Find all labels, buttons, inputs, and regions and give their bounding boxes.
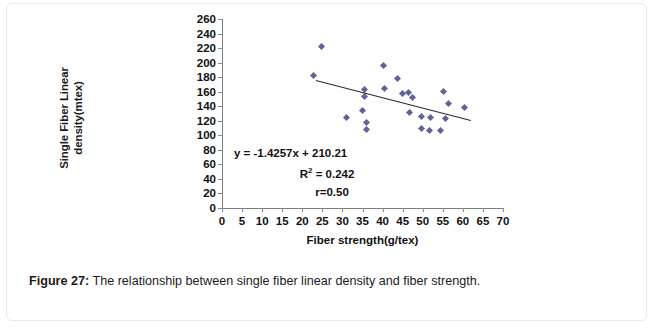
x-axis-tick [322,208,323,212]
scatter-point [442,115,449,122]
y-axis-tick-label: 240 [168,29,216,39]
y-axis-tick-label: 120 [168,116,216,126]
x-axis-tick [262,208,263,212]
figure-caption-text: The relationship between single fiber li… [89,274,480,288]
y-axis-tick-label: 40 [168,174,216,184]
y-axis-tick [218,106,222,107]
y-axis-tick-label: 60 [168,159,216,169]
y-axis-tick [218,63,222,64]
x-axis-tick [242,208,243,212]
x-axis-tick [483,208,484,212]
y-axis-tick [218,48,222,49]
figure-caption-label: Figure 27: [29,274,89,288]
y-axis-tick-label: 160 [168,87,216,97]
y-axis-tick-label: 80 [168,145,216,155]
x-axis-tick [302,208,303,212]
scatter-point [359,107,366,114]
x-axis-tick [363,208,364,212]
x-axis-tick [222,208,223,212]
figure-chart-area: Single Fiber Linear density(mtex) 020406… [0,0,653,262]
figure-caption: Figure 27: The relationship between sing… [29,272,621,291]
y-axis-tick [218,179,222,180]
chart-annotations: y = -1.4257x + 210.21 R2 = 0.242 r=0.50 [230,144,420,201]
y-axis-tick [218,77,222,78]
x-axis-tick [443,208,444,212]
scatter-point [427,114,434,121]
scatter-point [406,109,413,116]
x-axis-title: Fiber strength(g/tex) [202,234,523,246]
scatter-point [363,126,370,133]
y-axis-tick-label: 260 [168,14,216,24]
scatter-point [380,62,387,69]
y-axis-tick [218,19,222,20]
y-axis-title-line1: Single Fiber Linear [58,67,70,169]
y-axis-tick-label: 0 [168,203,216,213]
plot-area: 020406080100120140160180200220240260 051… [222,19,503,208]
x-axis-tick [383,208,384,212]
y-axis-tick-label: 180 [168,72,216,82]
scatter-point [418,113,425,120]
x-axis-tick [503,208,504,212]
y-axis-tick [218,164,222,165]
y-axis-tick [218,135,222,136]
y-axis-tick-label: 100 [168,130,216,140]
x-axis-tick [282,208,283,212]
y-axis-tick [218,150,222,151]
scatter-point [343,114,350,121]
scanned-page: Single Fiber Linear density(mtex) 020406… [0,0,653,328]
y-axis-title: Single Fiber Linear density(mtex) [57,11,85,226]
y-axis-tick [218,193,222,194]
scatter-point [318,43,325,50]
scatter-point [418,125,425,132]
y-axis-tick-label: 20 [168,188,216,198]
scatter-point [461,104,468,111]
y-axis-tick [218,34,222,35]
scatter-point [409,94,416,101]
x-axis-tick-label: 70 [488,215,518,227]
y-axis-tick-label: 200 [168,58,216,68]
x-axis-tick [342,208,343,212]
y-axis-line [222,19,223,208]
y-axis-tick [218,92,222,93]
y-axis-title-line2: density(mtex) [72,81,84,154]
scatter-point [381,85,388,92]
regression-equation: y = -1.4257x + 210.21 [230,144,420,162]
x-axis-tick [463,208,464,212]
correlation-coefficient: r=0.50 [230,183,420,201]
r-squared-label: R [300,168,308,180]
y-axis-tick [218,121,222,122]
scatter-point [440,88,447,95]
r-squared-value: R2 = 0.242 [230,162,420,183]
r-squared-number: = 0.242 [312,168,354,180]
scatter-point [444,100,451,107]
scatter-point [394,75,401,82]
y-axis-tick-label: 220 [168,43,216,53]
scatter-point [426,127,433,134]
scatter-point [310,72,317,79]
x-axis-tick [423,208,424,212]
x-axis-tick [403,208,404,212]
y-axis-tick-label: 140 [168,101,216,111]
scatter-point [437,127,444,134]
